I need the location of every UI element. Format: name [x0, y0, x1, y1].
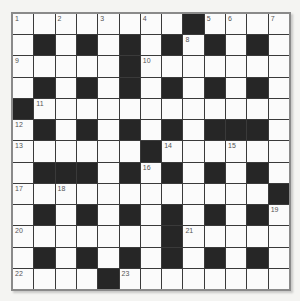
answer-cell[interactable]: [56, 120, 76, 140]
answer-cell[interactable]: [269, 99, 289, 119]
answer-cell[interactable]: [247, 141, 267, 161]
answer-cell[interactable]: [183, 205, 203, 225]
answer-cell[interactable]: [141, 78, 161, 98]
answer-cell[interactable]: [162, 56, 182, 76]
answer-cell[interactable]: [77, 141, 97, 161]
answer-cell[interactable]: [56, 269, 76, 289]
answer-cell[interactable]: [77, 184, 97, 204]
answer-cell[interactable]: [98, 184, 118, 204]
answer-cell[interactable]: [226, 56, 246, 76]
answer-cell[interactable]: [13, 163, 33, 183]
answer-cell[interactable]: 17: [13, 184, 33, 204]
answer-cell[interactable]: 1: [13, 14, 33, 34]
answer-cell[interactable]: [56, 248, 76, 268]
answer-cell[interactable]: [141, 248, 161, 268]
answer-cell[interactable]: 21: [183, 226, 203, 246]
answer-cell[interactable]: [269, 141, 289, 161]
answer-cell[interactable]: [77, 99, 97, 119]
answer-cell[interactable]: [226, 99, 246, 119]
answer-cell[interactable]: [98, 205, 118, 225]
answer-cell[interactable]: 6: [226, 14, 246, 34]
answer-cell[interactable]: [13, 248, 33, 268]
answer-cell[interactable]: [98, 35, 118, 55]
answer-cell[interactable]: 5: [205, 14, 225, 34]
answer-cell[interactable]: [141, 205, 161, 225]
answer-cell[interactable]: [98, 226, 118, 246]
answer-cell[interactable]: [183, 163, 203, 183]
answer-cell[interactable]: [56, 56, 76, 76]
answer-cell[interactable]: [34, 184, 54, 204]
answer-cell[interactable]: [183, 78, 203, 98]
answer-cell[interactable]: [269, 78, 289, 98]
answer-cell[interactable]: [247, 269, 267, 289]
answer-cell[interactable]: [98, 141, 118, 161]
answer-cell[interactable]: 9: [13, 56, 33, 76]
answer-cell[interactable]: [141, 184, 161, 204]
answer-cell[interactable]: 10: [141, 56, 161, 76]
answer-cell[interactable]: 2: [56, 14, 76, 34]
answer-cell[interactable]: [34, 226, 54, 246]
answer-cell[interactable]: [269, 35, 289, 55]
answer-cell[interactable]: [205, 99, 225, 119]
answer-cell[interactable]: [247, 226, 267, 246]
answer-cell[interactable]: [98, 248, 118, 268]
answer-cell[interactable]: [162, 184, 182, 204]
answer-cell[interactable]: [205, 269, 225, 289]
answer-cell[interactable]: [183, 141, 203, 161]
answer-cell[interactable]: 20: [13, 226, 33, 246]
answer-cell[interactable]: [141, 35, 161, 55]
answer-cell[interactable]: 13: [13, 141, 33, 161]
answer-cell[interactable]: [77, 226, 97, 246]
answer-cell[interactable]: 16: [141, 163, 161, 183]
answer-cell[interactable]: [56, 99, 76, 119]
answer-cell[interactable]: 12: [13, 120, 33, 140]
answer-cell[interactable]: [183, 99, 203, 119]
answer-cell[interactable]: [98, 99, 118, 119]
answer-cell[interactable]: [120, 141, 140, 161]
answer-cell[interactable]: [34, 56, 54, 76]
answer-cell[interactable]: [98, 163, 118, 183]
answer-cell[interactable]: [56, 205, 76, 225]
answer-cell[interactable]: [77, 14, 97, 34]
answer-cell[interactable]: 18: [56, 184, 76, 204]
answer-cell[interactable]: [183, 248, 203, 268]
answer-cell[interactable]: [183, 269, 203, 289]
answer-cell[interactable]: [269, 226, 289, 246]
answer-cell[interactable]: 11: [34, 99, 54, 119]
answer-cell[interactable]: [34, 141, 54, 161]
answer-cell[interactable]: [183, 56, 203, 76]
answer-cell[interactable]: [269, 163, 289, 183]
answer-cell[interactable]: [269, 248, 289, 268]
answer-cell[interactable]: [205, 226, 225, 246]
answer-cell[interactable]: [269, 56, 289, 76]
answer-cell[interactable]: [141, 99, 161, 119]
answer-cell[interactable]: 14: [162, 141, 182, 161]
answer-cell[interactable]: [162, 99, 182, 119]
answer-cell[interactable]: [269, 120, 289, 140]
answer-cell[interactable]: [226, 163, 246, 183]
answer-cell[interactable]: [13, 78, 33, 98]
answer-cell[interactable]: [226, 78, 246, 98]
answer-cell[interactable]: 23: [120, 269, 140, 289]
answer-cell[interactable]: [226, 248, 246, 268]
answer-cell[interactable]: 22: [13, 269, 33, 289]
answer-cell[interactable]: 15: [226, 141, 246, 161]
answer-cell[interactable]: [98, 56, 118, 76]
answer-cell[interactable]: [120, 99, 140, 119]
answer-cell[interactable]: [247, 56, 267, 76]
answer-cell[interactable]: [226, 205, 246, 225]
answer-cell[interactable]: [77, 56, 97, 76]
answer-cell[interactable]: [98, 78, 118, 98]
answer-cell[interactable]: [13, 35, 33, 55]
answer-cell[interactable]: [226, 226, 246, 246]
answer-cell[interactable]: 7: [269, 14, 289, 34]
answer-cell[interactable]: [226, 269, 246, 289]
answer-cell[interactable]: [205, 141, 225, 161]
answer-cell[interactable]: [269, 269, 289, 289]
answer-cell[interactable]: [141, 120, 161, 140]
answer-cell[interactable]: 4: [141, 14, 161, 34]
answer-cell[interactable]: 3: [98, 14, 118, 34]
answer-cell[interactable]: [141, 226, 161, 246]
answer-cell[interactable]: [226, 184, 246, 204]
answer-cell[interactable]: [13, 205, 33, 225]
